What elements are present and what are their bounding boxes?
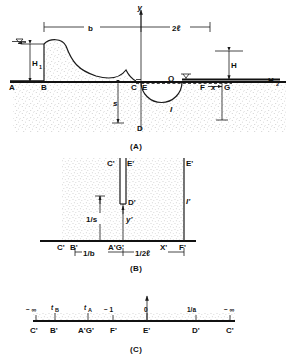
panel-b-point-E-top-inner: E' [127,159,134,168]
panel-a-dim-H1-label: H [32,59,38,68]
panel-b-point-D: D' [128,198,136,207]
panel-a-point-E: E [142,83,148,92]
panel-a-dim-H-label: H [231,61,237,70]
panel-c-band [33,313,235,321]
figure-svg: y b 2ℓ H 1 H s [0,0,287,358]
panel-c-tick-top-label-2: t [84,304,87,311]
panel-c-tick-top-label-6: − ∞ [224,306,235,313]
panel-a-point-F: F [200,83,205,92]
panel-c-tick-top-label-3: − 1 [104,306,114,313]
panel-a-label-H2-subscript: 2 [276,81,279,87]
panel-c-caption: (C) [130,345,142,354]
panel-b-dim-invb-label: 1/b [83,249,95,258]
panel-b-point-B: B' [70,243,78,252]
panel-b-dim-inv2l-label: 1/2ℓ [135,249,150,258]
panel-b-point-AG: A'G' [108,243,124,252]
panel-c-tick-bottom-label-2: A'G' [78,326,94,335]
panel-b-point-y: y' [125,215,133,224]
panel-a-point-C: C [131,83,137,92]
panel-a-label-Q: Q [168,74,174,83]
panel-a-y-axis-label: y [137,3,143,12]
panel-a-dim-b-label: b [88,24,93,33]
panel-c-tick-top-sub-2: A [88,307,92,313]
panel-a-dim-H1-subscript: 1 [39,64,42,70]
panel-c-tick-bottom-label-0: C' [30,326,38,335]
panel-a-point-A: A [9,83,15,92]
panel-a-dim-x-label: x [210,83,216,92]
panel-a-caption: (A) [130,142,142,151]
panel-c-tick-top-label-0: − ∞ [26,306,37,313]
figure-root: y b 2ℓ H 1 H s [0,0,287,358]
panel-b-point-X: X' [160,243,167,252]
panel-b-point-E-top-right: E' [186,159,193,168]
panel-c-tick-top-label-4: 0 [144,306,148,313]
water-table-icon [12,39,26,44]
panel-a-dim-s-label: s [113,99,118,108]
panel-b-dim-invs-label: 1/s [86,215,98,224]
panel-a-soil-mound [44,40,136,82]
panel-b-point-F: F' [179,243,186,252]
panel-c-tick-bottom-label-5: D' [192,326,200,335]
panel-b-point-I: I' [186,197,191,206]
panel-c-tick-top-label-5: 1/a [187,306,196,313]
panel-c-tick-bottom-label-1: B' [50,326,58,335]
panel-c-tick-bottom-label-6: C' [226,326,234,335]
panel-c-tick-bottom-label-3: F' [110,326,117,335]
panel-c-tick-bottom-label-4: E' [143,326,150,335]
panel-b-point-C-top: C' [107,159,115,168]
panel-a-dim-2l-label: 2ℓ [172,24,180,33]
panel-c-tick-top-label-1: t [51,304,54,311]
panel-b-slit-fill [120,158,126,204]
panel-a-point-B: B [41,83,47,92]
panel-a-point-D: D [137,124,143,133]
panel-a-label-H2: H [268,76,274,85]
panel-c: − ∞ t B t A − 1 0 1/a − ∞ C' B' A'G' F' … [26,296,235,354]
panel-a: y b 2ℓ H 1 H s [9,3,286,151]
panel-b-point-C-bottom: C' [57,243,65,252]
panel-c-tick-top-sub-1: B [55,307,59,313]
panel-b: 1/s 1/b 1/2ℓ C' E' E' D' I' y' C' B' A'G… [40,158,196,273]
panel-a-point-G: G [224,83,230,92]
panel-b-caption: (B) [130,264,142,273]
